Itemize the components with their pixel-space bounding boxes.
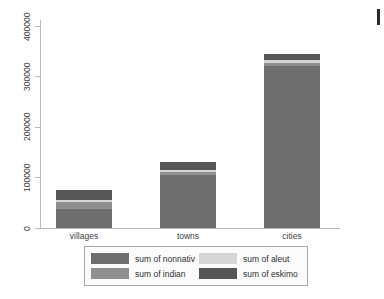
page-edge-marker: [377, 9, 380, 25]
segment-cities-nonnativ: [264, 66, 320, 228]
x-tick-label-villages: villages: [56, 231, 112, 241]
x-tick-label-cities: cities: [264, 231, 320, 241]
legend-label-nonnativ: sum of nonnativ: [135, 254, 195, 264]
legend-swatch-nonnativ: [91, 253, 129, 264]
legend-swatch-aleut: [199, 253, 237, 264]
y-tick-0: [35, 228, 40, 229]
legend-label-indian: sum of indian: [135, 269, 186, 279]
bar-cities[interactable]: [264, 54, 320, 228]
legend-item-eskimo[interactable]: sum of eskimo: [199, 268, 301, 279]
x-tick-label-towns: towns: [160, 231, 216, 241]
y-tick-label-400000: 400000: [22, 4, 32, 50]
legend-swatch-eskimo: [199, 268, 237, 279]
segment-villages-nonnativ: [56, 209, 112, 228]
bar-villages[interactable]: [56, 190, 112, 228]
legend-swatch-indian: [91, 268, 129, 279]
legend-label-aleut: sum of aleut: [243, 254, 289, 264]
segment-towns-eskimo: [160, 162, 216, 170]
stacked-bar-chart-figure: 0 100000 200000 300000 400000 villages t…: [0, 0, 384, 299]
legend-item-indian[interactable]: sum of indian: [91, 268, 195, 279]
bar-towns[interactable]: [160, 162, 216, 228]
y-tick-label-200000: 200000: [22, 104, 32, 150]
y-tick-label-100000: 100000: [22, 155, 32, 201]
legend-item-nonnativ[interactable]: sum of nonnativ: [91, 253, 195, 264]
y-tick-label-300000: 300000: [22, 54, 32, 100]
segment-villages-indian: [56, 202, 112, 209]
legend-item-aleut[interactable]: sum of aleut: [199, 253, 301, 264]
legend-label-eskimo: sum of eskimo: [243, 269, 298, 279]
x-axis-line: [40, 228, 340, 229]
chart-legend: sum of nonnativ sum of aleut sum of indi…: [84, 246, 308, 286]
segment-villages-eskimo: [56, 190, 112, 200]
y-tick-label-0: 0: [22, 222, 32, 236]
segment-towns-nonnativ: [160, 175, 216, 229]
plot-area: [40, 20, 338, 228]
